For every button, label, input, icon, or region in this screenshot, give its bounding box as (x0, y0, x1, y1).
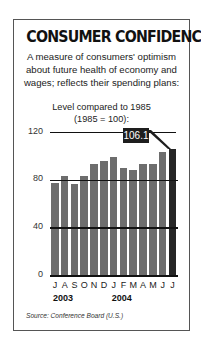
callout-pointer-icon (14, 20, 191, 332)
source-note: Source: Conference Board (U.S.) (26, 312, 123, 319)
chart-frame: CONSUMER CONFIDENCE A measure of consume… (13, 19, 190, 331)
